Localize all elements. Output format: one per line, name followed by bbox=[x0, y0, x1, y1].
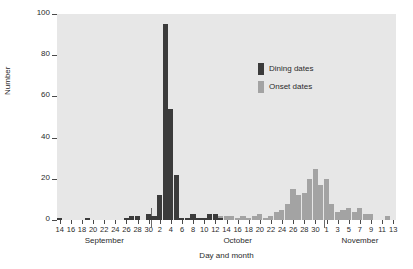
bar-dining-dates-Oct-5 bbox=[174, 175, 179, 220]
bar-onset-dates-Oct-26 bbox=[290, 189, 295, 220]
x-tick-line bbox=[171, 220, 172, 224]
x-tick-line bbox=[327, 220, 328, 224]
x-tick-line bbox=[193, 220, 194, 224]
bar-onset-dates-Oct-27 bbox=[296, 195, 301, 220]
x-tick-line bbox=[238, 220, 239, 224]
bar-dining-dates-Sep-30 bbox=[146, 214, 151, 220]
x-tick-line bbox=[249, 220, 250, 224]
x-tick-label: 16 bbox=[233, 225, 241, 234]
x-tick-line bbox=[126, 220, 127, 224]
bars-layer bbox=[57, 14, 396, 220]
y-tick-line bbox=[52, 14, 57, 15]
x-tick-line bbox=[360, 220, 361, 224]
bar-dining-dates-Oct-13 bbox=[218, 218, 223, 220]
bar-onset-dates-Nov-8 bbox=[363, 214, 368, 220]
epidemic-curve-chart: Number 020406080100 Day and month 141618… bbox=[0, 0, 413, 269]
x-tick-label: 8 bbox=[191, 225, 195, 234]
x-tick-label: 24 bbox=[111, 225, 119, 234]
legend-item-onset-dates: Onset dates bbox=[258, 81, 313, 93]
bar-dining-dates-Sep-14 bbox=[57, 218, 62, 220]
bar-onset-dates-Nov-5 bbox=[346, 208, 351, 220]
x-tick-line bbox=[382, 220, 383, 224]
x-tick-label: 26 bbox=[289, 225, 297, 234]
legend-item-dining-dates: Dining dates bbox=[258, 63, 313, 75]
bar-onset-dates-Oct-14 bbox=[224, 216, 229, 220]
x-tick-line bbox=[71, 220, 72, 224]
bar-dining-dates-Oct-9 bbox=[196, 218, 201, 220]
x-tick-line bbox=[282, 220, 283, 224]
x-tick-line bbox=[104, 220, 105, 224]
x-tick-line bbox=[371, 220, 372, 224]
bar-onset-dates-Oct-22 bbox=[268, 216, 273, 220]
bar-onset-dates-Oct-25 bbox=[285, 204, 290, 220]
y-tick-line bbox=[52, 138, 57, 139]
chart-legend: Dining datesOnset dates bbox=[258, 63, 313, 99]
bar-onset-dates-Oct-28 bbox=[302, 193, 307, 220]
x-tick-label: 24 bbox=[278, 225, 286, 234]
bar-onset-dates-Nov-3 bbox=[335, 212, 340, 220]
x-tick-line bbox=[60, 220, 61, 224]
x-tick-label: 20 bbox=[256, 225, 264, 234]
legend-swatch bbox=[258, 63, 264, 75]
bar-onset-dates-Nov-7 bbox=[357, 208, 362, 220]
y-axis: Number 020406080100 bbox=[0, 0, 57, 220]
bar-onset-dates-Nov-1 bbox=[324, 179, 329, 220]
bar-dining-dates-Oct-3 bbox=[163, 24, 168, 220]
x-tick-label: 5 bbox=[347, 225, 351, 234]
legend-swatch bbox=[258, 81, 264, 93]
bar-onset-dates-Oct-18 bbox=[246, 218, 251, 220]
bar-onset-dates-Oct-29 bbox=[307, 179, 312, 220]
bar-dining-dates-Sep-27 bbox=[129, 216, 134, 220]
y-tick-label: 80 bbox=[41, 49, 50, 59]
bar-dining-dates-Oct-12 bbox=[213, 214, 218, 220]
x-tick-label: 28 bbox=[300, 225, 308, 234]
x-tick-line bbox=[182, 220, 183, 224]
x-axis: Day and month 14161820222426283024681012… bbox=[57, 220, 396, 269]
x-tick-label: 28 bbox=[133, 225, 141, 234]
x-tick-line bbox=[260, 220, 261, 224]
x-tick-line bbox=[82, 220, 83, 224]
x-tick-line bbox=[338, 220, 339, 224]
bar-onset-dates-Nov-2 bbox=[329, 204, 334, 220]
y-tick-label: 100 bbox=[37, 8, 50, 18]
x-tick-line bbox=[315, 220, 316, 224]
bar-dining-dates-Oct-10 bbox=[201, 218, 206, 220]
bar-dining-dates-Oct-4 bbox=[168, 109, 173, 220]
x-tick-label: 26 bbox=[122, 225, 130, 234]
bar-onset-dates-Oct-17 bbox=[240, 216, 245, 220]
x-tick-label: 30 bbox=[311, 225, 319, 234]
y-tick-label: 20 bbox=[41, 173, 50, 183]
x-tick-label: 14 bbox=[56, 225, 64, 234]
bar-dining-dates-Oct-1 bbox=[151, 216, 156, 220]
bar-onset-dates-Nov-4 bbox=[340, 210, 345, 220]
x-tick-label: 20 bbox=[89, 225, 97, 234]
y-tick-line bbox=[52, 96, 57, 97]
x-tick-line bbox=[304, 220, 305, 224]
bar-dining-dates-Oct-8 bbox=[190, 214, 195, 220]
bar-onset-dates-Oct-16 bbox=[235, 218, 240, 220]
bar-dining-dates-Oct-2 bbox=[157, 195, 162, 220]
bar-onset-dates-Oct-24 bbox=[279, 210, 284, 220]
x-tick-line bbox=[227, 220, 228, 224]
x-tick-line bbox=[138, 220, 139, 224]
bar-onset-dates-Oct-21 bbox=[263, 218, 268, 220]
y-tick-label: 0 bbox=[46, 214, 50, 224]
x-tick-line bbox=[393, 220, 394, 224]
bar-dining-dates-Oct-6 bbox=[179, 218, 184, 220]
bar-onset-dates-Oct-19 bbox=[252, 216, 257, 220]
bar-onset-dates-Nov-12 bbox=[385, 216, 390, 220]
x-tick-line bbox=[93, 220, 94, 224]
month-label-october: October bbox=[223, 236, 251, 246]
x-tick-label: 9 bbox=[369, 225, 373, 234]
x-tick-label: 2 bbox=[158, 225, 162, 234]
y-tick-line bbox=[52, 179, 57, 180]
x-tick-line bbox=[115, 220, 116, 224]
bar-onset-dates-Oct-15 bbox=[229, 216, 234, 220]
x-tick-label: 18 bbox=[245, 225, 253, 234]
bar-dining-dates-Sep-26 bbox=[124, 218, 129, 220]
x-tick-line bbox=[160, 220, 161, 224]
x-axis-title: Day and month bbox=[57, 251, 396, 260]
x-tick-label: 6 bbox=[180, 225, 184, 234]
y-tick-label: 40 bbox=[41, 132, 50, 142]
x-tick-label: 1 bbox=[324, 225, 328, 234]
